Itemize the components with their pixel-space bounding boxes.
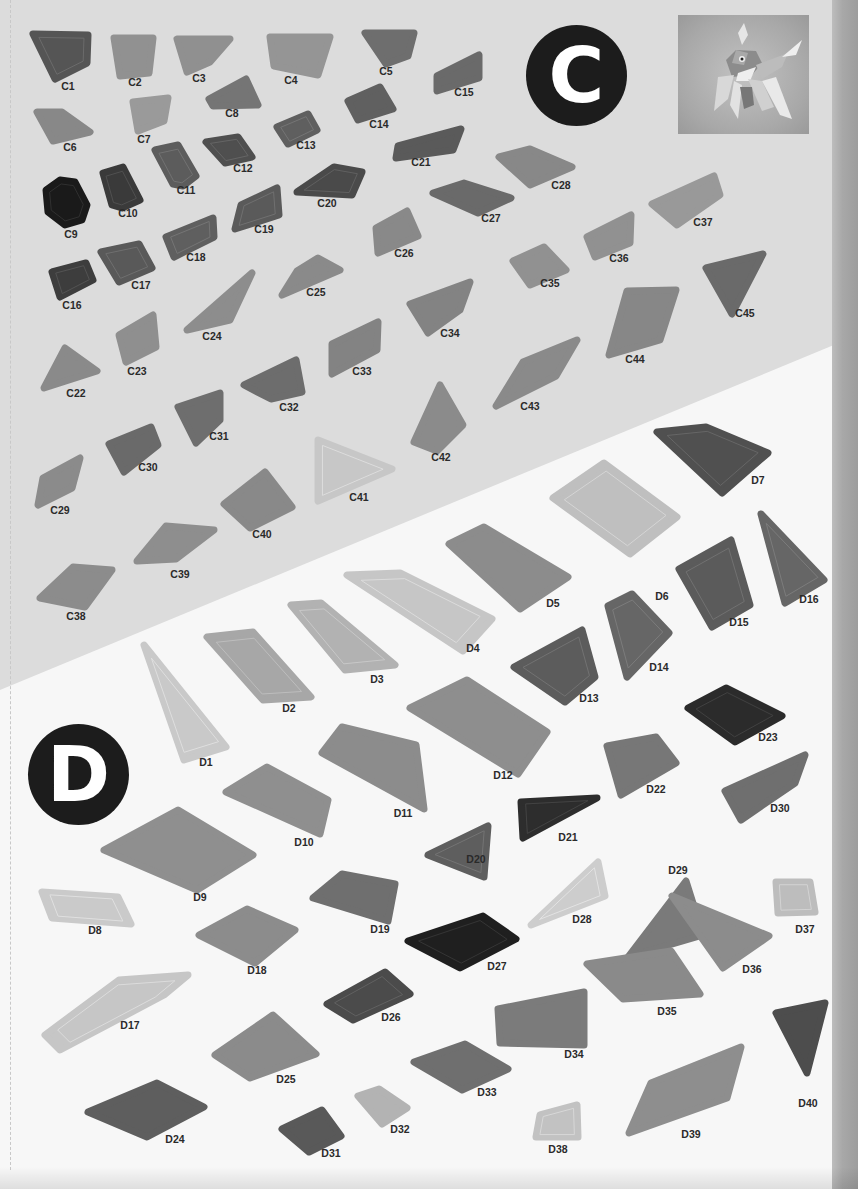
- section-d-letter: D: [47, 730, 110, 819]
- puzzle-piece-d18: [199, 909, 295, 963]
- puzzle-piece-d1: [144, 645, 226, 760]
- fish-icon: [678, 15, 809, 134]
- piece-shape: [215, 1015, 316, 1078]
- piece-label-d19: D19: [370, 923, 389, 935]
- puzzle-piece-d12: [410, 680, 547, 774]
- sheet-background: C1C2C3C4C5C6C7C8C9C10C11C12C13C14C15C16C…: [0, 0, 858, 1189]
- piece-label-c14: C14: [369, 118, 388, 130]
- puzzle-piece-d20: [428, 826, 488, 877]
- piece-label-c45: C45: [735, 307, 754, 319]
- puzzle-piece-d35: [587, 951, 700, 999]
- piece-label-d23: D23: [758, 731, 777, 743]
- piece-label-d18: D18: [247, 964, 266, 976]
- piece-label-c20: C20: [317, 197, 336, 209]
- piece-shape: [358, 1089, 407, 1124]
- puzzle-piece-d8: [42, 892, 131, 924]
- piece-label-d1: D1: [199, 756, 213, 768]
- puzzle-sheet: C1C2C3C4C5C6C7C8C9C10C11C12C13C14C15C16C…: [0, 0, 858, 1189]
- piece-shape: [88, 1083, 204, 1137]
- piece-label-c11: C11: [177, 184, 196, 196]
- puzzle-piece-d11: [322, 727, 424, 809]
- piece-label-d29: D29: [668, 864, 687, 876]
- piece-label-c4: C4: [284, 74, 298, 86]
- piece-label-d40: D40: [798, 1097, 817, 1109]
- piece-label-d33: D33: [477, 1086, 496, 1098]
- piece-label-d10: D10: [294, 836, 313, 848]
- puzzle-piece-d34: [498, 992, 584, 1045]
- piece-shape: [114, 38, 153, 76]
- piece-label-d17: D17: [120, 1019, 139, 1031]
- piece-label-c31: C31: [209, 430, 228, 442]
- piece-label-c30: C30: [138, 461, 157, 473]
- piece-label-c44: C44: [625, 353, 644, 365]
- piece-label-d25: D25: [276, 1073, 295, 1085]
- piece-label-c34: C34: [440, 327, 459, 339]
- section-c-badge: C: [526, 25, 627, 126]
- piece-shape: [322, 727, 424, 809]
- piece-label-d39: D39: [681, 1128, 700, 1140]
- piece-label-d20: D20: [466, 853, 485, 865]
- piece-label-c16: C16: [62, 299, 81, 311]
- piece-label-c8: C8: [225, 107, 239, 119]
- puzzle-piece-d15: [679, 540, 750, 627]
- piece-label-d24: D24: [165, 1133, 184, 1145]
- piece-label-d32: D32: [390, 1123, 409, 1135]
- piece-label-c26: C26: [394, 247, 413, 259]
- puzzle-piece-d17: [45, 975, 188, 1050]
- page-bottom-shadow: [0, 1167, 858, 1189]
- fold-line: [10, 0, 11, 1170]
- puzzle-piece-d24: [88, 1083, 204, 1137]
- piece-label-c17: C17: [131, 279, 150, 291]
- piece-label-d2: D2: [282, 702, 296, 714]
- section-c-letter: C: [549, 31, 605, 120]
- piece-shape: [410, 680, 547, 774]
- piece-label-c18: C18: [186, 251, 205, 263]
- piece-label-d16: D16: [799, 593, 818, 605]
- piece-label-d15: D15: [729, 616, 748, 628]
- piece-label-c35: C35: [540, 277, 559, 289]
- puzzle-piece-c4: [270, 37, 330, 75]
- piece-shape: [282, 1110, 341, 1152]
- piece-label-d37: D37: [795, 923, 814, 935]
- puzzle-piece-d25: [215, 1015, 316, 1078]
- piece-label-d8: D8: [88, 924, 102, 936]
- piece-shape: [226, 767, 328, 834]
- puzzle-piece-d2: [207, 632, 311, 700]
- piece-label-c24: C24: [202, 330, 221, 342]
- piece-label-c36: C36: [609, 252, 628, 264]
- puzzle-piece-d22: [607, 737, 676, 795]
- puzzle-piece-d28: [531, 862, 605, 925]
- puzzle-piece-d37: [776, 882, 815, 913]
- piece-label-c19: C19: [254, 223, 273, 235]
- puzzle-piece-d3: [291, 603, 395, 670]
- piece-shape: [498, 992, 584, 1045]
- piece-shape: [607, 737, 676, 795]
- piece-label-d36: D36: [742, 963, 761, 975]
- puzzle-piece-d30: [725, 755, 805, 820]
- piece-shape: [531, 862, 605, 925]
- piece-label-d31: D31: [321, 1147, 340, 1159]
- piece-label-d14: D14: [649, 661, 668, 673]
- piece-label-d26: D26: [381, 1011, 400, 1023]
- section-d-badge: D: [28, 724, 129, 825]
- piece-label-c40: C40: [252, 528, 271, 540]
- piece-label-d34: D34: [564, 1048, 583, 1060]
- piece-shape: [629, 1047, 741, 1133]
- piece-label-d28: D28: [572, 913, 591, 925]
- piece-label-c15: C15: [454, 86, 473, 98]
- piece-shape: [313, 874, 395, 921]
- puzzle-piece-d40: [776, 1003, 825, 1073]
- piece-label-d3: D3: [370, 673, 384, 685]
- reference-image: [678, 15, 809, 134]
- piece-shape: [776, 1003, 825, 1073]
- piece-shape: [414, 1044, 508, 1090]
- piece-label-c3: C3: [192, 72, 206, 84]
- piece-label-d21: D21: [558, 831, 577, 843]
- piece-label-c32: C32: [279, 401, 298, 413]
- piece-label-c33: C33: [352, 365, 371, 377]
- puzzle-piece-d6: [553, 463, 677, 554]
- piece-label-c21: C21: [411, 156, 430, 168]
- piece-shape: [587, 951, 700, 999]
- piece-label-c38: C38: [66, 610, 85, 622]
- puzzle-piece-d38: [536, 1105, 578, 1137]
